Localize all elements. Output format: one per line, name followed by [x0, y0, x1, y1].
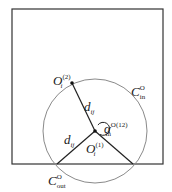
- label-o2: O(2)i: [53, 72, 63, 88]
- label-c-in: COin: [131, 83, 145, 99]
- label-c-out: COout: [48, 172, 66, 188]
- center-point-o1: [93, 129, 97, 133]
- label-alpha: αO(12)in: [104, 120, 111, 136]
- label-o1: O(1)i: [86, 140, 96, 156]
- diagram: O(2)i COin dij αO(12)in dij O(1)i COout: [0, 0, 172, 192]
- diagram-canvas: [0, 0, 172, 192]
- point-o2: [70, 81, 74, 85]
- label-d-upper: dij: [84, 98, 94, 114]
- label-d-lower: dij: [64, 131, 74, 147]
